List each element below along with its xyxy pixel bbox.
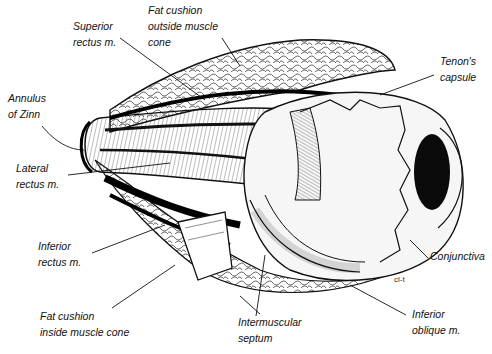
label-inferior-oblique: Inferior oblique m. <box>412 306 460 338</box>
label-line: Conjunctiva <box>430 248 485 264</box>
label-line: Lateral <box>16 160 59 176</box>
label-line: Inferior <box>412 306 460 322</box>
artist-signature: cl-t <box>394 275 405 284</box>
label-line: inside muscle cone <box>40 324 129 340</box>
cornea <box>414 134 450 210</box>
label-line: cone <box>148 34 218 50</box>
label-line: rectus m. <box>38 254 81 270</box>
label-inferior-rectus: Inferior rectus m. <box>38 238 81 270</box>
label-superior-rectus: Superior rectus m. <box>73 18 116 50</box>
label-fat-inside-cone: Fat cushion inside muscle cone <box>40 308 129 340</box>
label-line: outside muscle <box>148 18 218 34</box>
label-tenons-capsule: Tenon's capsule <box>440 53 476 85</box>
label-intermuscular-septum: Intermuscular septum <box>238 314 302 346</box>
label-line: Fat cushion <box>40 308 129 324</box>
label-line: Tenon's <box>440 53 476 69</box>
label-fat-outside-cone: Fat cushion outside muscle cone <box>148 2 218 50</box>
label-line: Annulus <box>8 90 46 106</box>
label-conjunctiva: Conjunctiva <box>430 248 485 264</box>
label-line: Superior <box>73 18 116 34</box>
label-line: oblique m. <box>412 322 460 338</box>
label-line: Inferior <box>38 238 81 254</box>
inferior-rectus-cut <box>178 212 232 280</box>
anatomy-illustration: cl-t <box>0 0 492 354</box>
label-line: rectus m. <box>73 34 116 50</box>
label-line: Intermuscular <box>238 314 302 330</box>
orbital-anatomy-diagram: cl-t Superior rectus m. Fat cushion outs… <box>0 0 492 354</box>
label-line: septum <box>238 330 302 346</box>
label-annulus-of-zinn: Annulus of Zinn <box>8 90 46 122</box>
label-lateral-rectus: Lateral rectus m. <box>16 160 59 192</box>
label-line: of Zinn <box>8 106 46 122</box>
label-line: rectus m. <box>16 176 59 192</box>
label-line: Fat cushion <box>148 2 218 18</box>
label-line: capsule <box>440 69 476 85</box>
